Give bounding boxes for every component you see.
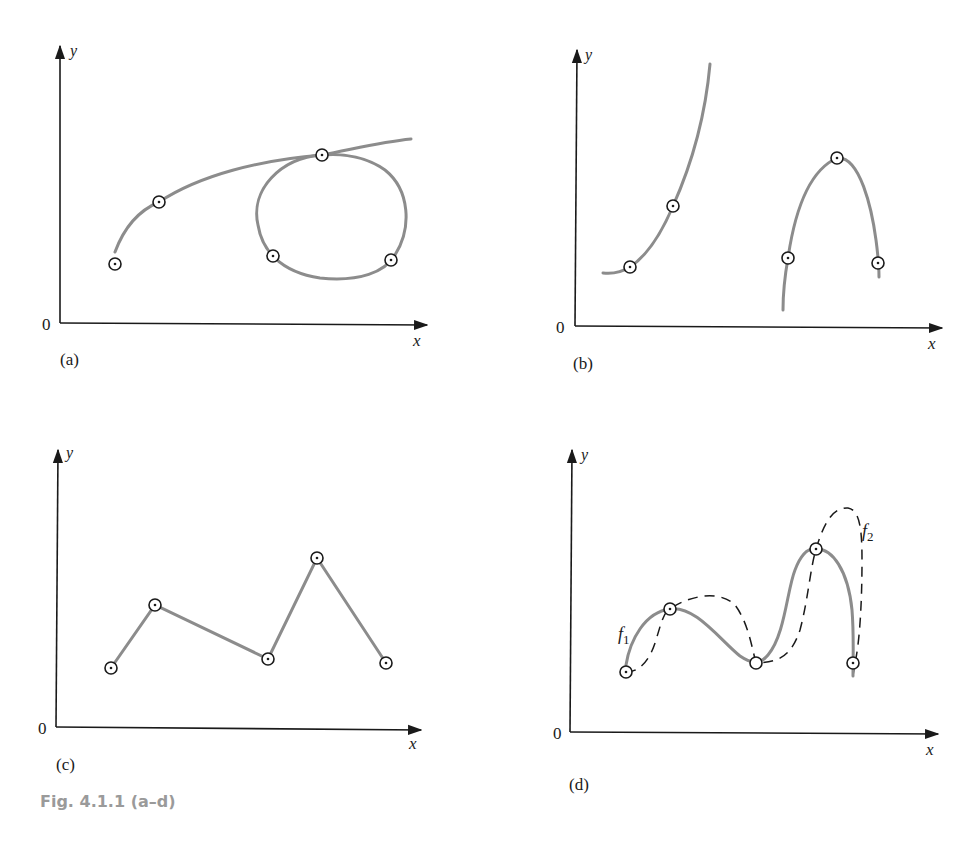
origin-label: 0 — [556, 318, 565, 337]
y-axis-label: y — [583, 46, 593, 64]
data-points-b — [624, 152, 884, 273]
x-axis-label: x — [927, 334, 936, 353]
y-axis-label: y — [68, 42, 78, 60]
panel-b: y x 0 (b) — [556, 46, 942, 373]
origin-label: 0 — [553, 724, 562, 743]
x-axis — [60, 323, 427, 325]
curve-a-loop — [257, 155, 406, 279]
f2-label: f2 — [862, 521, 874, 544]
data-points-a — [109, 149, 397, 270]
curve-b-right — [783, 158, 879, 310]
panel-label: (d) — [569, 775, 589, 794]
panel-d: f1 f2 y x 0 (d) — [553, 446, 938, 794]
y-axis-label: y — [64, 444, 74, 462]
curve-c-polyline — [111, 558, 386, 668]
f1-label: f1 — [618, 624, 630, 647]
y-axis — [570, 450, 572, 732]
y-axis — [56, 450, 58, 727]
origin-label: 0 — [38, 719, 47, 738]
x-axis — [56, 727, 421, 730]
x-axis — [570, 732, 938, 734]
x-axis-label: x — [925, 740, 934, 759]
y-axis-label: y — [579, 446, 589, 464]
origin-label: 0 — [42, 315, 51, 334]
panel-label: (a) — [60, 350, 79, 369]
x-axis — [575, 326, 942, 328]
panel-c: y x 0 (c) — [38, 444, 421, 774]
panel-label: (c) — [56, 755, 75, 774]
y-axis — [575, 50, 577, 326]
panel-a: y x 0 (a) — [42, 42, 427, 369]
figure-canvas: y x 0 (a) y x 0 (b) y — [0, 0, 977, 849]
curve-f2 — [626, 508, 862, 676]
panel-label: (b) — [573, 354, 593, 373]
curve-b-left — [603, 64, 710, 273]
figure-caption: Fig. 4.1.1 (a–d) — [40, 792, 176, 811]
x-axis-label: x — [412, 331, 421, 350]
x-axis-label: x — [408, 734, 417, 753]
